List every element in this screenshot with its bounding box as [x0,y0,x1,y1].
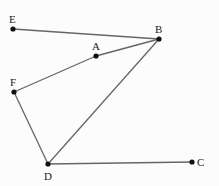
point-c [189,159,194,164]
geometry-diagram: E B A F D C [0,0,219,186]
point-f [11,89,16,94]
segment-db [48,39,159,164]
segment-dc [48,162,192,164]
label-d: D [44,170,52,182]
label-a: A [92,40,100,52]
point-d [45,161,50,166]
label-b: B [155,23,162,35]
point-e [10,26,15,31]
point-b [156,36,161,41]
point-a [93,53,98,58]
segment-fa [14,56,96,92]
label-c: C [197,156,204,168]
segment-fd [14,92,48,164]
label-f: F [10,76,16,88]
label-e: E [9,13,16,25]
segment-ab [96,39,159,56]
segment-eb [13,29,159,39]
